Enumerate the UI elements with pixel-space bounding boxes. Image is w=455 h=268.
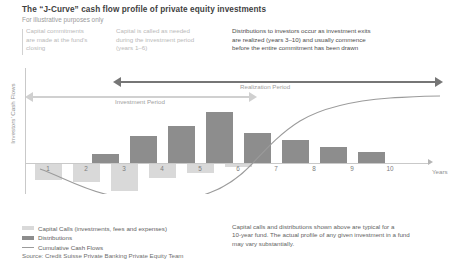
note-line: before the entire commitment has been dr… — [232, 44, 447, 53]
footnote-line: 10-year fund. The actual profile of any … — [232, 231, 450, 239]
note-capital-commitments: Capital commitments are made at the fund… — [22, 27, 118, 53]
note-line: Distributions to investors occur as inve… — [232, 27, 447, 36]
legend-label: Capital Calls (investments, fees and exp… — [38, 225, 167, 232]
legend-swatch-cumulative-line-icon — [22, 247, 34, 248]
legend-item-capital-calls: Capital Calls (investments, fees and exp… — [22, 224, 167, 232]
note-line: Capital commitments — [26, 27, 118, 36]
note-distributions: Distributions to investors occur as inve… — [232, 27, 447, 53]
page-title: The “J-Curve” cash flow profile of priva… — [22, 5, 266, 14]
footnote-line: may vary substantially. — [232, 240, 450, 248]
note-rule — [22, 29, 23, 55]
plot-area: Realization Period Investment Period Inv… — [0, 64, 455, 194]
legend: Capital Calls (investments, fees and exp… — [22, 224, 167, 253]
note-line: closing — [26, 44, 118, 53]
note-capital-called: Capital is called as needed during the i… — [116, 27, 224, 53]
footnote-line: Capital calls and distributions shown ab… — [232, 223, 450, 231]
note-line: are made at the fund’s — [26, 36, 118, 45]
page-subtitle: For illustrative purposes only — [22, 16, 103, 23]
note-line: Capital is called as needed — [116, 27, 224, 36]
legend-swatch-capital-calls-icon — [22, 226, 34, 230]
note-line: (years 1–6) — [116, 44, 224, 53]
note-line: during the investment period — [116, 36, 224, 45]
legend-item-distributions: Distributions — [22, 234, 167, 242]
legend-item-cumulative: Cumulative Cash Flows — [22, 243, 167, 251]
j-curve-figure: The “J-Curve” cash flow profile of priva… — [0, 0, 455, 268]
footnote: Capital calls and distributions shown ab… — [232, 223, 450, 248]
note-line: are realized (years 3–10) and usually co… — [232, 36, 447, 45]
cumulative-cash-flow-curve — [0, 64, 455, 194]
source-note: Source: Credit Suisse Private Banking Pr… — [22, 252, 184, 259]
legend-label: Distributions — [38, 234, 72, 241]
legend-swatch-distributions-icon — [22, 236, 34, 240]
legend-label: Cumulative Cash Flows — [38, 244, 103, 251]
